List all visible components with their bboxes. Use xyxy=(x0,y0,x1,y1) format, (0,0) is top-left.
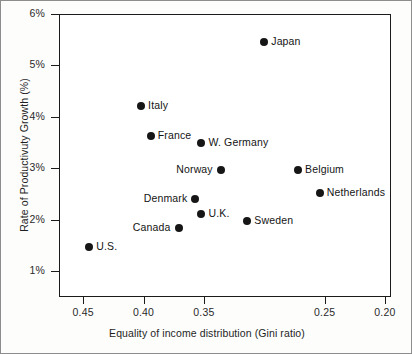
y-axis-tick xyxy=(51,14,59,15)
data-point xyxy=(316,189,324,197)
data-point-label: Japan xyxy=(271,35,300,47)
data-point-label: W. Germany xyxy=(208,136,268,148)
y-axis-tick-label: 6% xyxy=(5,7,45,19)
y-axis-tick xyxy=(51,117,59,118)
data-point-label: Belgium xyxy=(305,163,344,175)
y-axis-title: Rate of Productivuty Growth (%) xyxy=(18,50,30,260)
x-axis-tick xyxy=(204,297,205,304)
data-point-label: Sweden xyxy=(254,214,293,226)
data-point xyxy=(175,224,183,232)
scatter-plot-figure: 1%2%3%4%5%6% 0.450.400.350.250.20 JapanI… xyxy=(0,0,412,354)
y-axis-tick xyxy=(51,65,59,66)
data-point xyxy=(137,102,145,110)
data-point-label: Netherlands xyxy=(327,186,385,198)
data-point-label: U.S. xyxy=(96,240,117,252)
data-point-label: France xyxy=(158,129,192,141)
x-axis-tick xyxy=(144,297,145,304)
x-axis-tick-label: 0.25 xyxy=(300,306,350,318)
x-axis-title: Equality of income distribution (Gini ra… xyxy=(1,327,412,339)
x-axis-tick-label: 0.40 xyxy=(119,306,169,318)
x-axis-tick xyxy=(385,297,386,304)
y-axis-tick xyxy=(51,271,59,272)
data-point-label: U.K. xyxy=(208,207,229,219)
data-point-label: Norway xyxy=(1,163,213,175)
plot-area-frame xyxy=(59,14,391,297)
x-axis-tick-label: 0.35 xyxy=(179,306,229,318)
x-axis-tick xyxy=(325,297,326,304)
data-point xyxy=(147,132,155,140)
data-point-label: Italy xyxy=(148,99,168,111)
y-axis-tick-label: 1% xyxy=(5,264,45,276)
x-axis-tick xyxy=(83,297,84,304)
x-axis-tick-label: 0.20 xyxy=(360,306,410,318)
x-axis-tick-label: 0.45 xyxy=(58,306,108,318)
